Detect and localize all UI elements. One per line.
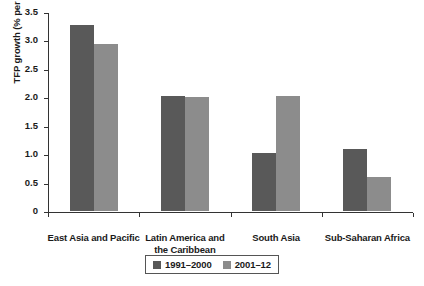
y-tick-label: 1.5 xyxy=(8,120,38,131)
x-tick xyxy=(48,213,49,217)
y-tick: 2.5 xyxy=(44,70,48,71)
category-label-line: Latin America and xyxy=(135,232,234,244)
y-axis-line xyxy=(48,13,49,213)
bar xyxy=(161,96,185,211)
bar xyxy=(185,97,209,211)
y-tick-label: 1.0 xyxy=(8,148,38,159)
y-tick: 1.0 xyxy=(44,155,48,156)
category-label-line: East Asia and Pacific xyxy=(44,232,143,244)
category-label: Latin America andthe Caribbean xyxy=(135,232,234,255)
y-tick-label: 2.5 xyxy=(8,63,38,74)
legend-swatch xyxy=(153,261,161,269)
y-tick-label: 0.5 xyxy=(8,177,38,188)
category-label-line: South Asia xyxy=(227,232,326,244)
y-tick: 0.5 xyxy=(44,184,48,185)
bar xyxy=(276,96,300,211)
bar xyxy=(94,44,118,211)
y-tick-label: 2.0 xyxy=(8,91,38,102)
y-tick: 1.5 xyxy=(44,127,48,128)
y-tick-label: 0 xyxy=(8,205,38,216)
x-tick xyxy=(231,213,232,217)
legend-item[interactable]: 1991–2000 xyxy=(153,259,212,270)
category-label: Sub-Saharan Africa xyxy=(318,232,417,244)
y-tick: 3.0 xyxy=(44,41,48,42)
category-label-line: the Caribbean xyxy=(135,244,234,256)
bar xyxy=(367,177,391,211)
legend-box: 1991–20002001–12 xyxy=(145,255,279,274)
category-label: East Asia and Pacific xyxy=(44,232,143,244)
x-tick xyxy=(322,213,323,217)
legend-label: 1991–2000 xyxy=(165,259,212,270)
y-tick-label: 3.5 xyxy=(8,6,38,17)
y-tick-label: 3.0 xyxy=(8,34,38,45)
legend: 1991–20002001–12 xyxy=(0,255,424,274)
bar xyxy=(343,149,367,212)
legend-label: 2001–12 xyxy=(235,259,271,270)
plot-area: 00.51.01.52.02.53.03.5 East Asia and Pac… xyxy=(48,13,413,212)
category-label-line: Sub-Saharan Africa xyxy=(318,232,417,244)
x-tick xyxy=(139,213,140,217)
legend-item[interactable]: 2001–12 xyxy=(223,259,271,270)
y-tick: 3.5 xyxy=(44,13,48,14)
x-tick xyxy=(413,213,414,217)
y-tick: 2.0 xyxy=(44,98,48,99)
legend-swatch xyxy=(223,261,231,269)
bar-chart: TFP growth (% per year) 00.51.01.52.02.5… xyxy=(0,0,424,286)
bar xyxy=(252,153,276,211)
bar xyxy=(70,25,94,211)
category-label: South Asia xyxy=(227,232,326,244)
